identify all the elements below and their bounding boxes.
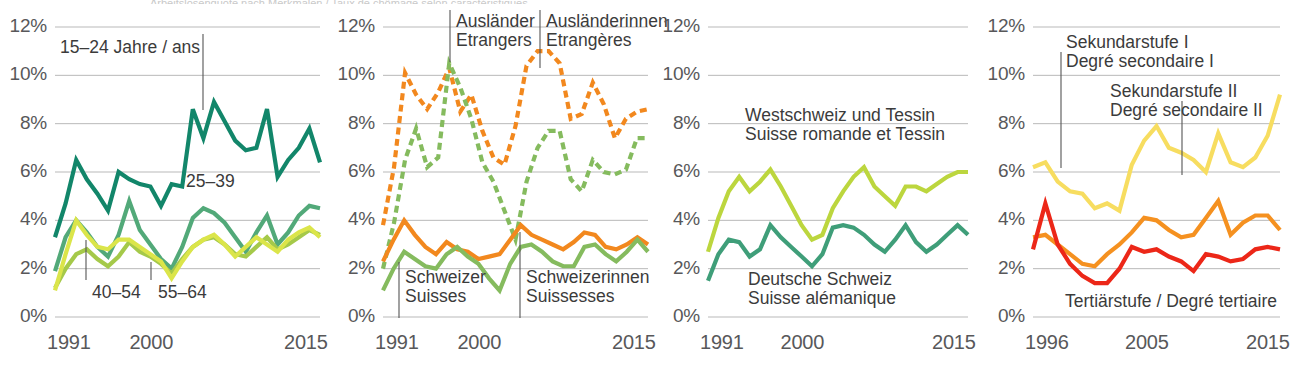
annotation-auslaenderinnen: AusländerinnenEtrangères — [546, 12, 668, 50]
y-axis-tick-label: 10% — [10, 63, 47, 85]
y-axis-tick-label: 8% — [673, 112, 700, 134]
annotation-age-40-54: 40–54 — [92, 283, 141, 302]
y-axis-tick-label: 8% — [348, 112, 375, 134]
y-axis-tick-label: 10% — [988, 63, 1025, 85]
y-axis-tick-label: 8% — [998, 112, 1025, 134]
annotation-line: Ausländerinnen — [546, 12, 668, 31]
annotation-westschweiz-tessin: Westschweiz und TessinSuisse romande et … — [745, 106, 945, 144]
y-axis-tick-label: 0% — [673, 305, 700, 327]
annotation-line: Suisses — [405, 287, 486, 306]
series-line — [708, 167, 968, 252]
y-axis-tick-label: 0% — [20, 305, 47, 327]
annotation-line: Ausländer — [456, 12, 535, 31]
figure-root: Arbeitslosenquote nach Merkmalen / Taux … — [0, 0, 1297, 380]
annotation-line: 55–64 — [158, 283, 207, 302]
annotation-line: Deutsche Schweiz — [748, 270, 896, 289]
annotation-line: Etrangers — [456, 31, 535, 50]
y-axis-tick-label: 12% — [10, 15, 47, 37]
annotation-tertiaerstufe: Tertiärstufe / Degré tertiaire — [1065, 292, 1277, 311]
y-axis-tick-label: 8% — [20, 112, 47, 134]
annotation-auslaender: AusländerEtrangers — [456, 12, 535, 50]
annotation-line: 15–24 Jahre / ans — [60, 38, 200, 57]
y-axis-tick-label: 12% — [663, 15, 700, 37]
annotation-sekundarstufe-1: Sekundarstufe IDegré secondaire I — [1066, 33, 1214, 71]
y-axis-tick-label: 4% — [20, 208, 47, 230]
annotation-line: Sekundarstufe I — [1066, 33, 1214, 52]
chart-panel-education-levels: 12%10%8%6%4%2%0%199620052015Sekundarstuf… — [980, 0, 1297, 380]
chart-panel-age-groups: 12%10%8%6%4%2%0%19912000201515–24 Jahre … — [0, 0, 330, 380]
y-axis-tick-label: 6% — [20, 160, 47, 182]
plot-area-3 — [660, 0, 980, 380]
x-axis-tick-label: 1991 — [47, 331, 91, 354]
annotation-schweizer: SchweizerSuisses — [405, 268, 486, 306]
y-axis-tick-label: 12% — [988, 15, 1025, 37]
plot-area-2 — [330, 0, 660, 380]
y-axis-tick-label: 2% — [673, 257, 700, 279]
annotation-age-25-39: 25–39 — [186, 172, 235, 191]
annotation-line: Etrangères — [546, 31, 668, 50]
x-axis-tick-label: 2000 — [781, 331, 825, 354]
x-axis-tick-label: 1991 — [375, 331, 419, 354]
y-axis-tick-label: 2% — [20, 257, 47, 279]
x-axis-tick-label: 2015 — [1246, 331, 1290, 354]
annotation-age-55-64: 55–64 — [158, 283, 207, 302]
plot-area-1 — [0, 0, 330, 380]
x-axis-tick-label: 2005 — [1125, 331, 1169, 354]
annotation-line: Tertiärstufe / Degré tertiaire — [1065, 292, 1277, 311]
y-axis-tick-label: 6% — [998, 160, 1025, 182]
x-axis-tick-label: 2000 — [129, 331, 173, 354]
chart-panel-nationality-sex: 12%10%8%6%4%2%0%199120002015AusländerEtr… — [330, 0, 660, 380]
annotation-sekundarstufe-2: Sekundarstufe IIDegré secondaire II — [1110, 82, 1263, 120]
annotation-line: Schweizerinnen — [526, 268, 650, 287]
annotation-line: Suisse romande et Tessin — [745, 125, 945, 144]
series-line — [1033, 203, 1280, 283]
y-axis-tick-label: 4% — [348, 208, 375, 230]
y-axis-tick-label: 6% — [348, 160, 375, 182]
y-axis-tick-label: 6% — [673, 160, 700, 182]
annotation-line: Degré secondaire I — [1066, 52, 1214, 71]
series-line — [55, 201, 320, 271]
series-line — [55, 102, 320, 237]
annotation-line: Schweizer — [405, 268, 486, 287]
x-axis-tick-label: 2015 — [932, 331, 976, 354]
annotation-deutsche-schweiz: Deutsche SchweizSuisse alémanique — [748, 270, 896, 308]
y-axis-tick-label: 0% — [998, 305, 1025, 327]
annotation-line: Westschweiz und Tessin — [745, 106, 945, 125]
y-axis-tick-label: 2% — [348, 257, 375, 279]
chart-panel-language-regions: 12%10%8%6%4%2%0%199120002015Westschweiz … — [660, 0, 980, 380]
y-axis-tick-label: 10% — [338, 63, 375, 85]
series-line — [383, 51, 648, 225]
y-axis-tick-label: 12% — [338, 15, 375, 37]
x-axis-tick-label: 2000 — [457, 331, 501, 354]
x-axis-tick-label: 1996 — [1025, 331, 1069, 354]
annotation-schweizerinnen: SchweizerinnenSuissesses — [526, 268, 650, 306]
y-axis-tick-label: 10% — [663, 63, 700, 85]
y-axis-tick-label: 4% — [998, 208, 1025, 230]
y-axis-tick-label: 2% — [998, 257, 1025, 279]
y-axis-tick-label: 4% — [673, 208, 700, 230]
annotation-line: Suisse alémanique — [748, 289, 896, 308]
x-axis-tick-label: 1991 — [700, 331, 744, 354]
y-axis-tick-label: 0% — [348, 305, 375, 327]
annotation-line: 25–39 — [186, 172, 235, 191]
x-axis-tick-label: 2015 — [284, 331, 328, 354]
annotation-line: Degré secondaire II — [1110, 101, 1263, 120]
x-axis-tick-label: 2015 — [612, 331, 656, 354]
annotation-line: Suissesses — [526, 287, 650, 306]
annotation-line: 40–54 — [92, 283, 141, 302]
annotation-age-15-24: 15–24 Jahre / ans — [60, 38, 200, 57]
annotation-line: Sekundarstufe II — [1110, 82, 1263, 101]
series-line — [383, 63, 648, 268]
